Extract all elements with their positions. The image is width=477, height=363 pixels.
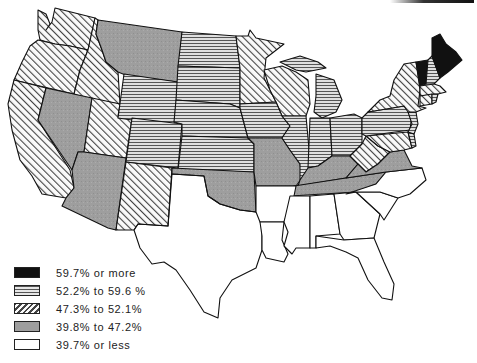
legend-label: 59.7% or more xyxy=(56,267,136,279)
swatch-solid-black xyxy=(14,267,40,278)
state-FL xyxy=(316,236,394,300)
legend-label: 52.2% to 59.6 % xyxy=(56,285,146,297)
state-NM xyxy=(116,162,172,230)
legend-item-c5: 39.7% or less xyxy=(14,336,146,353)
state-RI xyxy=(432,94,438,104)
state-ND xyxy=(178,32,240,68)
state-MS xyxy=(284,196,310,254)
legend-label: 39.8% to 47.2% xyxy=(56,321,142,333)
state-KS xyxy=(178,136,254,172)
legend-label: 47.3% to 52.1% xyxy=(56,303,142,315)
swatch-horizontal-lines xyxy=(14,285,40,296)
state-WY xyxy=(118,74,178,126)
legend-label: 39.7% or less xyxy=(56,339,130,351)
state-CT xyxy=(420,94,432,106)
legend: 59.7% or more 52.2% to 59.6 % 47.3% to 5… xyxy=(14,264,146,354)
swatch-white xyxy=(14,339,40,350)
state-CO xyxy=(126,118,182,168)
swatch-gray-fill xyxy=(14,321,40,332)
legend-item-c1: 59.7% or more xyxy=(14,264,146,281)
state-LA xyxy=(260,222,288,262)
legend-item-c4: 39.8% to 47.2% xyxy=(14,318,146,335)
legend-item-c3: 47.3% to 52.1% xyxy=(14,300,146,317)
legend-item-c2: 52.2% to 59.6 % xyxy=(14,282,146,299)
swatch-diagonal-lines xyxy=(14,303,40,314)
